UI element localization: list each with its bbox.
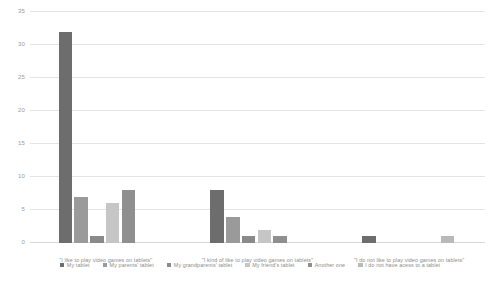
y-axis-tick-label: 15	[18, 140, 25, 146]
gridline: 15	[30, 143, 485, 144]
legend-item[interactable]: My grandparents' tablet	[167, 262, 232, 268]
bar-chart: 05101520253035"I like to play video game…	[0, 0, 500, 281]
plot-area: 05101520253035"I like to play video game…	[30, 12, 485, 243]
legend-label: I do not have acess to a tablet	[365, 262, 440, 268]
y-axis-tick-label: 30	[18, 41, 25, 47]
legend-label: My friend's tablet	[252, 262, 294, 268]
legend-swatch-icon	[308, 263, 313, 268]
bar	[258, 230, 271, 243]
chart-legend: My tabletMy parents' tabletMy grandparen…	[0, 262, 500, 268]
y-axis-tick-label: 20	[18, 107, 25, 113]
legend-item[interactable]: My tablet	[60, 262, 90, 268]
legend-swatch-icon	[358, 263, 363, 268]
gridline: 35	[30, 11, 485, 12]
bar	[59, 32, 72, 243]
gridline: 5	[30, 209, 485, 210]
y-axis-tick-label: 35	[18, 8, 25, 14]
y-axis-tick-label: 10	[18, 173, 25, 179]
legend-swatch-icon	[245, 263, 250, 268]
legend-item[interactable]: My friend's tablet	[245, 262, 294, 268]
bar	[242, 236, 255, 243]
bar	[122, 190, 135, 243]
bar	[226, 217, 239, 243]
legend-swatch-icon	[60, 263, 65, 268]
y-axis-tick-label: 25	[18, 74, 25, 80]
bar	[362, 236, 375, 243]
gridline: 30	[30, 44, 485, 45]
gridline: 10	[30, 176, 485, 177]
legend-label: My parents' tablet	[110, 262, 154, 268]
bar	[210, 190, 223, 243]
legend-label: My tablet	[67, 262, 90, 268]
bar	[90, 236, 103, 243]
legend-swatch-icon	[103, 263, 108, 268]
legend-label: My grandparents' tablet	[174, 262, 232, 268]
legend-swatch-icon	[167, 263, 172, 268]
bar	[273, 236, 286, 243]
legend-item[interactable]: My parents' tablet	[103, 262, 154, 268]
y-axis-tick-label: 5	[21, 206, 25, 212]
bar	[106, 203, 119, 243]
gridline: 25	[30, 77, 485, 78]
bar	[74, 197, 87, 243]
legend-item[interactable]: Another one	[308, 262, 345, 268]
legend-item[interactable]: I do not have acess to a tablet	[358, 262, 440, 268]
gridline: 20	[30, 110, 485, 111]
bar	[441, 236, 454, 243]
y-axis-tick-label: 0	[21, 239, 25, 245]
legend-label: Another one	[315, 262, 345, 268]
